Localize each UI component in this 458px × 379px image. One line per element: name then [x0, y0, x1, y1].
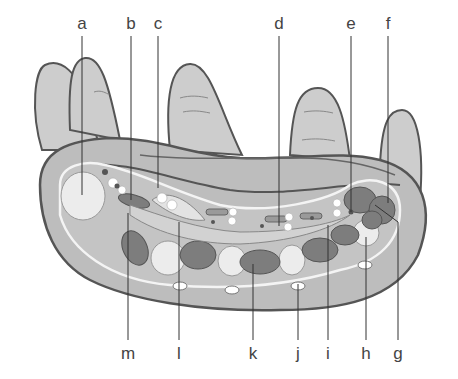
label-f: f	[378, 14, 398, 34]
finger-index	[290, 88, 350, 160]
label-e: e	[341, 14, 361, 34]
finger-ring	[70, 58, 120, 140]
label-l: l	[169, 344, 189, 364]
hand-cross-section-diagram	[0, 0, 458, 379]
label-d: d	[269, 14, 289, 34]
label-a: a	[72, 14, 92, 34]
label-m: m	[118, 344, 138, 364]
finger-middle	[168, 64, 242, 155]
label-h: h	[356, 344, 376, 364]
label-i: i	[318, 344, 338, 364]
label-k: k	[243, 344, 263, 364]
bone-a	[61, 172, 105, 220]
label-g: g	[388, 344, 408, 364]
label-c: c	[148, 14, 168, 34]
label-b: b	[121, 14, 141, 34]
label-j: j	[288, 344, 308, 364]
